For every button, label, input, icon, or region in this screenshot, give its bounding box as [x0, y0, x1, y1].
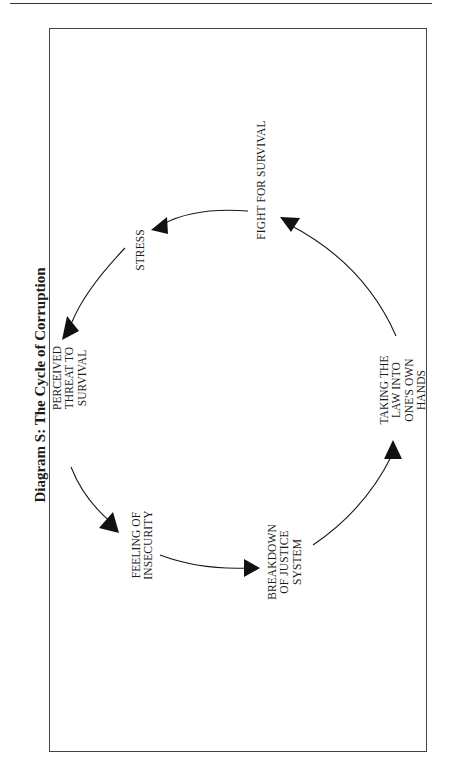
cycle-arrows	[0, 0, 453, 778]
arrowhead-into-stress	[151, 217, 168, 234]
arrowhead-into-insecurity	[99, 512, 119, 533]
arrowhead-into-breakdown	[244, 559, 260, 577]
arrow-stress-to-perceived	[72, 248, 125, 322]
arrowhead-into-perceived	[62, 316, 79, 340]
arrow-perceived-to-insecurity	[71, 467, 112, 523]
arrowhead-into-taking	[384, 440, 402, 459]
arrow-breakdown-to-taking	[313, 455, 392, 545]
arrow-taking-to-fight	[292, 226, 396, 336]
arrow-insecurity-to-breakdown	[160, 555, 248, 568]
arrow-fight-to-stress	[163, 210, 248, 224]
arrowhead-into-fight	[280, 217, 300, 232]
